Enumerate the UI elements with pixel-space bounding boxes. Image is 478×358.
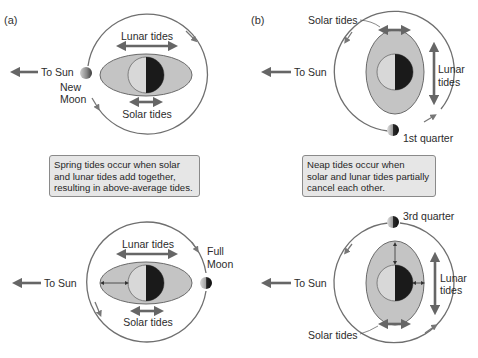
orbit-direction-arrow-icon xyxy=(424,116,434,122)
panel-b-top: (b) To Sun Solar tides Lunar tides 1st q… xyxy=(251,11,465,144)
full-moon-icon xyxy=(200,277,212,289)
leader-line xyxy=(360,326,378,334)
orbit-direction-arrow-icon xyxy=(425,326,435,333)
earth-icon xyxy=(377,265,413,301)
moon-phase-label: New xyxy=(60,81,81,93)
to-sun-label: To Sun xyxy=(41,66,74,78)
caption-line: and lunar tides add together, xyxy=(54,171,195,183)
lunar-tides-label: tides xyxy=(440,284,462,296)
panel-a-label: (a) xyxy=(4,14,17,26)
first-quarter-moon-icon xyxy=(387,124,399,136)
earth-icon xyxy=(128,57,164,93)
to-sun-label: To Sun xyxy=(294,277,327,289)
moon-phase-label: 3rd quarter xyxy=(403,210,455,222)
moon-phase-label: Moon xyxy=(207,258,233,270)
leader-line xyxy=(360,20,380,27)
moon-phase-label: Full xyxy=(207,245,224,257)
caption-line: resulting in above-average tides. xyxy=(54,182,195,194)
lunar-tides-label: tides xyxy=(438,76,460,88)
earth-icon xyxy=(128,265,164,301)
earth-icon xyxy=(377,54,413,90)
panel-a-bottom: To Sun Full Moon Lunar tides Solar tides xyxy=(17,222,233,342)
lunar-tides-label: Lunar xyxy=(440,272,467,284)
caption-line: solar and lunar tides partially xyxy=(307,171,431,183)
orbit-direction-arrow-icon xyxy=(92,98,98,108)
panel-b-label: (b) xyxy=(251,14,264,26)
moon-phase-label: 1st quarter xyxy=(403,132,454,144)
to-sun-label: To Sun xyxy=(294,66,327,78)
orbit-direction-arrow-icon xyxy=(95,302,100,314)
moon-phase-label: Moon xyxy=(60,93,86,105)
orbit-direction-arrow-icon xyxy=(346,32,352,41)
caption-line: Spring tides occur when solar xyxy=(54,159,195,171)
lunar-tides-label: Lunar xyxy=(438,63,465,75)
solar-tides-label: Solar tides xyxy=(308,329,358,341)
spring-tides-caption: Spring tides occur when solar and lunar … xyxy=(49,155,200,197)
to-sun-label: To Sun xyxy=(44,277,77,289)
lunar-tides-label: Lunar tides xyxy=(121,30,173,42)
new-moon-icon xyxy=(80,67,92,79)
solar-tides-label: Solar tides xyxy=(123,316,173,328)
third-quarter-moon-icon xyxy=(387,216,399,228)
solar-tides-label: Solar tides xyxy=(122,108,172,120)
orbit-direction-arrow-icon xyxy=(192,242,197,250)
solar-tides-label: Solar tides xyxy=(308,14,358,26)
lunar-tides-label: Lunar tides xyxy=(122,238,174,250)
caption-line: Neap tides occur when xyxy=(307,159,431,171)
neap-tides-caption: Neap tides occur when solar and lunar ti… xyxy=(302,155,436,197)
panel-b-bottom: To Sun 3rd quarter Lunar tides Solar tid… xyxy=(266,210,467,343)
panel-a-top: (a) To Sun New Moon Lunar tides Solar ti… xyxy=(4,14,207,134)
caption-line: cancel each other. xyxy=(307,182,431,194)
